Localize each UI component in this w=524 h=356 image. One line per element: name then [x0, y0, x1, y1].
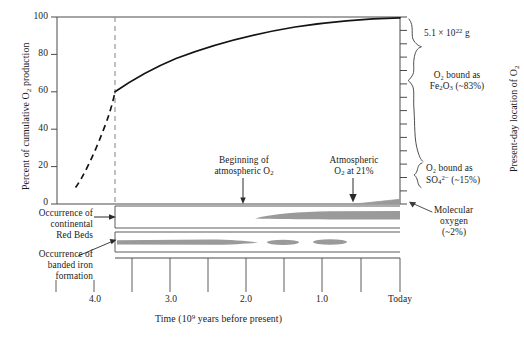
x-tick-today: Today — [381, 294, 419, 305]
annotation-beginning-line1: Beginning of — [219, 155, 269, 165]
annotation-atmospheric-o2-21: Atmospheric O2 at 21% — [321, 155, 387, 177]
annotation-beginning-atmospheric-o2: Beginning of atmospheric O2 — [203, 155, 285, 177]
red-beds-line3: Red Beds — [56, 230, 93, 240]
label-o2-bound-so4: O₂ bound as SO42− (~15%) — [426, 163, 494, 186]
right-axis-title: Present-day location of O2 — [508, 65, 521, 172]
molecular-line2: oxygen — [434, 216, 468, 226]
figure-container: 100 80 60 40 20 0 Percent of cumulative … — [0, 0, 524, 356]
right-axis-ticks — [400, 17, 407, 204]
annotation-arrows — [240, 178, 356, 204]
label-red-beds: Occurrence of continental Red Beds — [8, 208, 93, 241]
time-axis — [56, 258, 400, 292]
label-banded-iron-formation: Occurrence of banded iron formation — [3, 249, 93, 282]
y-axis-ticks — [51, 17, 57, 204]
bif-line2: banded iron — [48, 260, 93, 270]
red-beds-line1: Occurrence of — [39, 208, 93, 218]
banded-iron-panel — [115, 232, 400, 252]
x-axis-title: Time (109 years before present) — [155, 313, 282, 325]
x-tick-4: 4.0 — [84, 294, 106, 305]
bif-line3: formation — [55, 271, 93, 281]
red-beds-line2: continental — [51, 219, 93, 229]
y-tick-0: 0 — [29, 197, 48, 208]
bif-line1: Occurrence of — [39, 249, 93, 259]
y-axis-title: Percent of cumulative O2 production — [20, 43, 33, 190]
label-molecular-oxygen: Molecular oxygen (~2%) — [434, 205, 492, 238]
red-beds-panel — [115, 206, 400, 228]
y-tick-100: 100 — [29, 11, 48, 22]
label-o2-bound-fe2o3: O₂ bound as Fe2O3 (~83%) — [424, 70, 490, 92]
fe2o3-line1: O₂ bound as — [434, 70, 481, 80]
annotation-atmospheric-line1: Atmospheric — [329, 155, 378, 165]
molecular-line1: Molecular — [434, 205, 473, 215]
x-tick-1: 1.0 — [311, 294, 333, 305]
molecular-oxygen-wedge — [353, 199, 400, 204]
molecular-line3: (~2%) — [434, 227, 466, 237]
label-total-o2-mass: 5.1 × 1022 g — [424, 27, 486, 39]
x-tick-2: 2.0 — [235, 294, 257, 305]
x-tick-3: 3.0 — [160, 294, 182, 305]
so4-line1: O₂ bound as — [426, 163, 473, 173]
